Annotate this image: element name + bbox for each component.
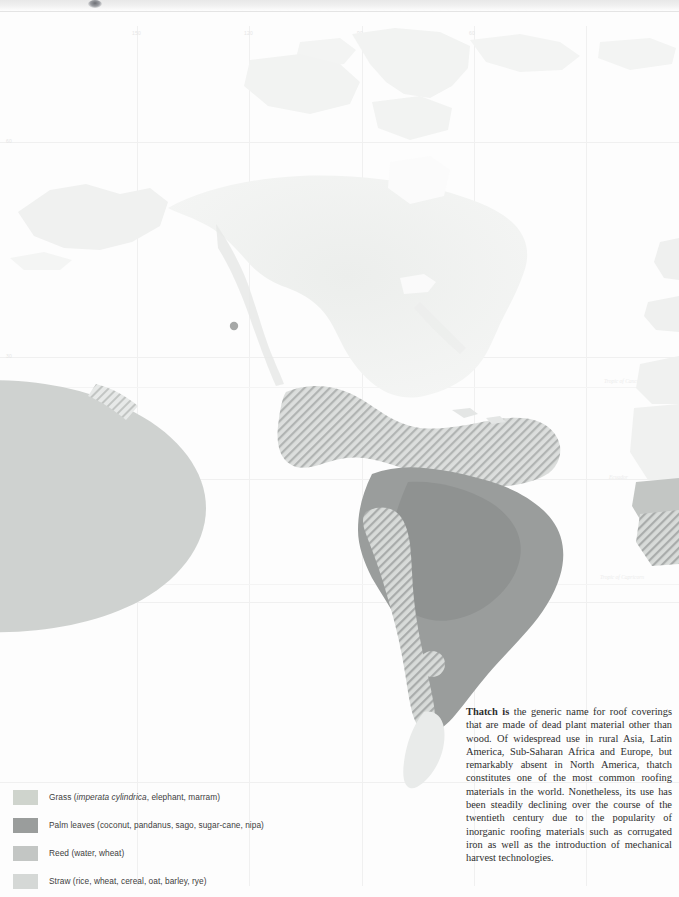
landmass-aleutians xyxy=(10,252,72,270)
legend-label-palm-leaves: Palm leaves (coconut, pandanus, sago, su… xyxy=(49,820,264,830)
legend-item-grass[interactable]: Grass (imperata cylindrica, elephant, ma… xyxy=(13,783,313,811)
landmass-arctic-islands xyxy=(296,34,676,72)
page-root: 150 120 90 60 60 30 0 30 Tropic of Cance… xyxy=(0,0,679,897)
landmass-alaska xyxy=(18,184,168,250)
landmass-iberia-nw-africa xyxy=(630,356,679,482)
legend-swatch-straw xyxy=(13,874,38,889)
legend-label-grass-italic: imperata cylindrica xyxy=(77,792,147,802)
map-legend: Grass (imperata cylindrica, elephant, ma… xyxy=(13,783,313,895)
legend-item-straw[interactable]: Straw (rice, wheat, cereal, oat, barley,… xyxy=(13,867,313,895)
legend-swatch-palm-leaves xyxy=(13,818,38,833)
header-mark-icon xyxy=(88,0,102,8)
thematic-oceania-region xyxy=(0,380,206,632)
legend-item-reed[interactable]: Reed (water, wheat) xyxy=(13,839,313,867)
thematic-southern-chile-patch xyxy=(419,651,445,677)
landmass-greenland xyxy=(352,28,470,98)
legend-label-grass: Grass (imperata cylindrica, elephant, ma… xyxy=(49,792,220,802)
legend-swatch-reed xyxy=(13,846,38,861)
legend-swatch-grass xyxy=(13,790,38,805)
legend-item-palm-leaves[interactable]: Palm leaves (coconut, pandanus, sago, su… xyxy=(13,811,313,839)
legend-label-grass-main: Grass ( xyxy=(49,792,77,802)
landmass-europe-edge xyxy=(644,238,679,332)
map-marker-dot xyxy=(230,322,238,330)
description-lead: Thatch is xyxy=(466,706,509,717)
description-body: the generic name for roof coverings that… xyxy=(466,706,672,863)
landmass-caribbean-islands xyxy=(452,408,506,424)
legend-label-reed: Reed (water, wheat) xyxy=(49,848,124,858)
legend-label-grass-tail: , elephant, marram) xyxy=(147,792,220,802)
thematic-west-africa-hatched xyxy=(636,510,679,566)
thatch-description: Thatch is the generic name for roof cove… xyxy=(466,705,672,865)
legend-label-straw: Straw (rice, wheat, cereal, oat, barley,… xyxy=(49,876,207,886)
landmass-patagonia xyxy=(403,712,444,789)
landmass-north-america xyxy=(168,176,527,398)
header-strip xyxy=(0,0,679,11)
